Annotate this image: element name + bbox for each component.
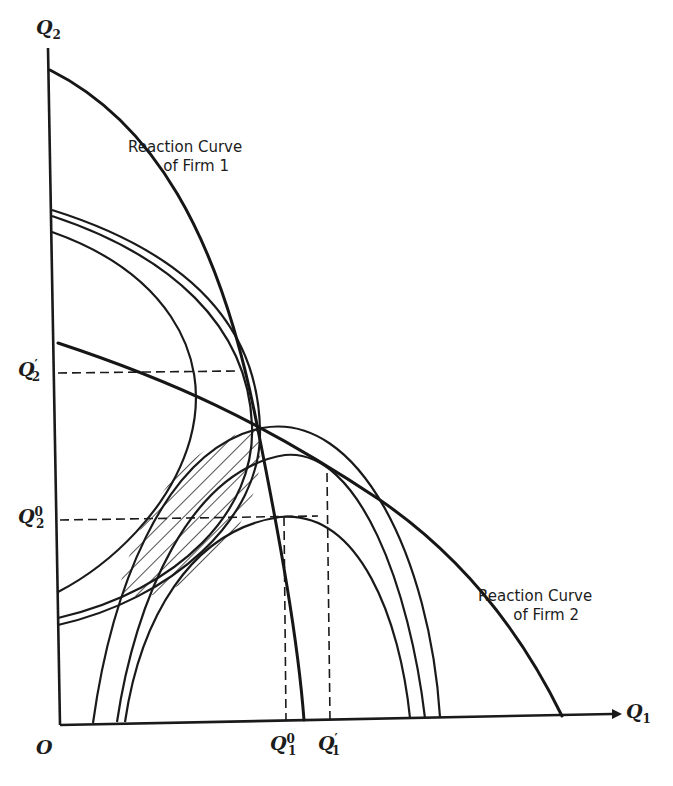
y-tick-q2-zero-sub: 2	[36, 517, 44, 531]
y-tick-q2-zero-text: Q	[18, 505, 35, 527]
firm2-label-line1: Reaction Curve	[478, 587, 592, 606]
y-tick-q2-prime-sub: 2	[32, 370, 40, 384]
reaction-curve-firm1-label: Reaction Curve of Firm 1	[128, 138, 242, 176]
q1-prime-guide	[327, 473, 330, 720]
reaction-curve-diagram	[0, 0, 673, 786]
y-tick-q2-zero: Q02	[18, 505, 44, 531]
x-axis	[60, 714, 612, 725]
reaction-curve-firm2-label: Reaction Curve of Firm 2	[478, 587, 592, 625]
x-tick-q1-zero: Q01	[270, 732, 296, 758]
origin-label: O	[36, 736, 53, 758]
x-axis-arrow	[612, 709, 622, 719]
x-axis-label-subscript: 1	[643, 712, 651, 726]
y-axis-label: Q2	[36, 16, 61, 42]
q1-zero-guide	[284, 517, 286, 721]
y-axis	[48, 48, 60, 725]
y-axis-label-subscript: 2	[53, 28, 61, 42]
firm2-label-line2: of Firm 2	[478, 606, 592, 625]
y-tick-q2-prime: Q′2	[18, 358, 40, 384]
reaction-curve-firm2	[58, 343, 562, 716]
origin-label-text: O	[36, 736, 53, 758]
firm1-label-line1: Reaction Curve	[128, 138, 242, 157]
hatched-region	[118, 428, 260, 597]
equilibrium-point	[256, 428, 260, 432]
x-tick-q1-zero-sub: 1	[288, 744, 296, 758]
x-tick-q1-zero-text: Q	[270, 732, 287, 754]
x-axis-label-text: Q	[626, 700, 643, 722]
x-axis-label: Q1	[626, 700, 651, 726]
x-tick-q1-prime-sub: 1	[332, 744, 340, 758]
q2-prime-guide	[58, 371, 236, 373]
y-axis-label-text: Q	[36, 16, 53, 38]
x-tick-q1-prime: Q′1	[318, 732, 340, 758]
firm1-label-line2: of Firm 1	[128, 157, 242, 176]
